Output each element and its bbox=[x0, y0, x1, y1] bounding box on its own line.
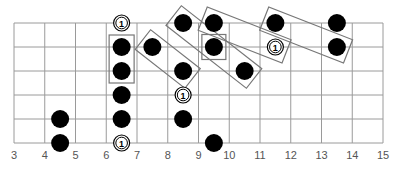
fret-label: 6 bbox=[103, 149, 109, 161]
fretboard-diagram: 1111 bbox=[0, 0, 399, 172]
fret-label: 12 bbox=[285, 149, 297, 161]
root-label: 1 bbox=[181, 91, 186, 101]
note-dot bbox=[174, 110, 192, 128]
note-dot bbox=[51, 110, 69, 128]
note-dot bbox=[113, 62, 131, 80]
note-dot bbox=[113, 86, 131, 104]
fret-label: 4 bbox=[42, 149, 48, 161]
note-dot bbox=[205, 14, 223, 32]
fret-label: 11 bbox=[254, 149, 265, 161]
root-marker: 1 bbox=[267, 39, 283, 55]
note-dot bbox=[328, 38, 346, 56]
fret-label: 8 bbox=[165, 149, 171, 161]
note-dot bbox=[113, 110, 131, 128]
fret-label: 5 bbox=[72, 149, 78, 161]
note-dot bbox=[328, 14, 346, 32]
fret-label: 9 bbox=[195, 149, 201, 161]
root-label: 1 bbox=[119, 19, 124, 29]
note-dot bbox=[205, 134, 223, 152]
root-label: 1 bbox=[273, 43, 278, 53]
note-dot bbox=[143, 38, 161, 56]
fret-label: 15 bbox=[377, 149, 389, 161]
note-dot bbox=[266, 14, 284, 32]
note-dot bbox=[174, 14, 192, 32]
fret-label: 7 bbox=[134, 149, 140, 161]
note-dot bbox=[113, 38, 131, 56]
fret-label: 13 bbox=[315, 149, 327, 161]
note-dot bbox=[205, 38, 223, 56]
fret-label: 3 bbox=[11, 149, 17, 161]
fret-label: 14 bbox=[346, 149, 358, 161]
root-marker: 1 bbox=[175, 87, 191, 103]
root-label: 1 bbox=[119, 139, 124, 149]
root-marker: 1 bbox=[114, 135, 130, 151]
fretboard-grid bbox=[14, 23, 383, 143]
note-dot bbox=[51, 134, 69, 152]
note-dot bbox=[236, 62, 254, 80]
root-marker: 1 bbox=[114, 15, 130, 31]
note-dot bbox=[174, 62, 192, 80]
fret-label: 10 bbox=[223, 149, 235, 161]
